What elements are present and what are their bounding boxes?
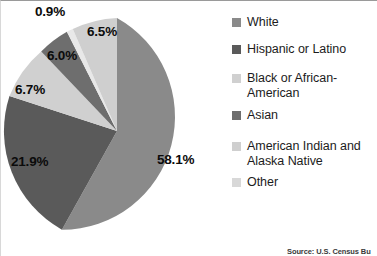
legend-swatch-hispanic-or-latino-icon <box>232 45 241 54</box>
legend-item-black-or-african-american[interactable]: Black or African- American <box>232 71 377 101</box>
pie-label-hispanic: 21.9% <box>11 155 48 169</box>
legend-swatch-asian-icon <box>232 111 241 120</box>
chart-legend: White Hispanic or Latino Black or Africa… <box>232 15 377 202</box>
source-note: Source: U.S. Census Bu <box>287 247 377 256</box>
legend-label-asian: Asian <box>247 108 278 123</box>
legend-label-other: Other <box>247 175 278 190</box>
legend-label-american-indian-and-alaska-native: American Indian and Alaska Native <box>247 139 377 169</box>
pie-label-other: 6.5% <box>87 25 117 39</box>
legend-label-hispanic-or-latino: Hispanic or Latino <box>247 42 346 57</box>
legend-swatch-white-icon <box>232 18 241 27</box>
legend-item-hispanic-or-latino[interactable]: Hispanic or Latino <box>232 42 377 57</box>
legend-item-other[interactable]: Other <box>232 175 377 190</box>
legend-swatch-american-indian-and-alaska-native-icon <box>232 142 241 151</box>
pie-chart-figure: 58.1% 21.9% 6.7% 6.0% 0.9% 6.5% White Hi… <box>0 0 377 256</box>
pie-label-white: 58.1% <box>157 153 194 167</box>
pie-plot-area: 58.1% 21.9% 6.7% 6.0% 0.9% 6.5% <box>3 3 231 255</box>
legend-item-asian[interactable]: Asian <box>232 108 377 123</box>
pie-svg <box>3 3 231 255</box>
legend-item-white[interactable]: White <box>232 15 377 30</box>
legend-swatch-black-or-african-american-icon <box>232 74 241 83</box>
pie-label-black: 6.7% <box>15 83 45 97</box>
legend-item-american-indian-and-alaska-native[interactable]: American Indian and Alaska Native <box>232 139 377 169</box>
pie-label-asian: 6.0% <box>47 49 77 63</box>
legend-label-white: White <box>247 15 279 30</box>
legend-swatch-other-icon <box>232 178 241 187</box>
legend-label-black-or-african-american: Black or African- American <box>247 71 337 101</box>
pie-label-american-indian: 0.9% <box>35 5 65 19</box>
